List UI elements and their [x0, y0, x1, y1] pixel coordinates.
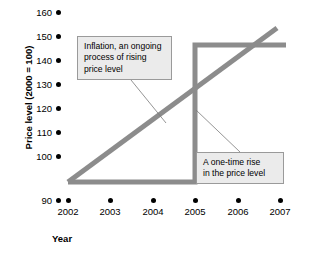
x-tick-label-2004: 2004	[133, 207, 173, 217]
x-tick-dot-2006	[236, 198, 241, 203]
x-tick-label-2007: 2007	[260, 207, 300, 217]
x-tick-label-2005: 2005	[175, 207, 215, 217]
x-tick-dot-2002	[66, 198, 71, 203]
x-tick-dot-2003	[108, 198, 113, 203]
x-axis-title: Year	[52, 233, 72, 244]
annotation-inflation: Inflation, an ongoing process of rising …	[77, 36, 172, 80]
x-tick-dot-2005	[193, 198, 198, 203]
annotation-inflation-line3: price level	[84, 64, 166, 75]
x-tick-label-2003: 2003	[90, 207, 130, 217]
annotation-one-time-line1: A one-time rise	[203, 157, 278, 168]
x-tick-label-2006: 2006	[218, 207, 258, 217]
price-level-chart: Price level (2000 = 100) 160 150 140 130…	[0, 0, 309, 254]
leader-line-one-time	[196, 110, 240, 152]
leader-line-inflation	[131, 80, 166, 123]
x-tick-dot-2007	[278, 198, 283, 203]
x-tick-label-2002: 2002	[48, 207, 88, 217]
x-tick-dot-2004	[151, 198, 156, 203]
annotation-one-time-line2: in the price level	[203, 168, 278, 179]
annotation-one-time-rise: A one-time rise in the price level	[196, 152, 284, 184]
annotation-inflation-line1: Inflation, an ongoing	[84, 41, 166, 52]
annotation-inflation-line2: process of rising	[84, 52, 166, 63]
